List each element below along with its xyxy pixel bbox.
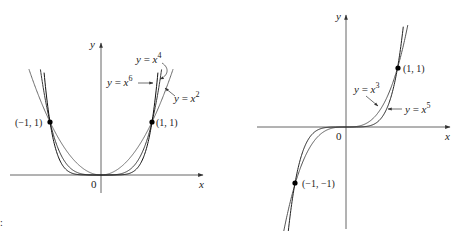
point-label-neg1-1: (−1, 1) [15, 117, 42, 129]
y-axis-label: y [335, 10, 341, 22]
origin-label: 0 [336, 130, 342, 142]
point-1-1 [395, 65, 400, 70]
point-neg1-1 [47, 119, 52, 124]
power-functions-figure: x y 0 (−1, 1) (1, 1) y = x4 y = x6 y = x… [0, 0, 460, 238]
origin-label: 0 [91, 178, 97, 190]
point-neg1-neg1 [292, 180, 297, 185]
point-label-1-1: (1, 1) [403, 63, 425, 75]
x-axis-label: x [198, 178, 204, 190]
x-axis-label: x [444, 130, 450, 142]
pointer-x3 [366, 96, 378, 106]
point-label-neg1-neg1: (−1, −1) [302, 178, 335, 190]
y-axis-label: y [89, 38, 95, 50]
even-powers-chart: x y 0 (−1, 1) (1, 1) y = x4 y = x6 y = x… [10, 38, 204, 193]
point-label-1-1: (1, 1) [156, 117, 178, 129]
label-x2: y = x2 [173, 90, 200, 104]
label-x5: y = x5 [404, 101, 431, 115]
odd-powers-chart: x y 0 (1, 1) (−1, −1) y = x3 y = x5 [257, 10, 450, 231]
label-x4: y = x4 [135, 51, 162, 65]
point-1-1 [149, 119, 154, 124]
label-x3: y = x3 [353, 81, 380, 95]
label-x6: y = x6 [106, 74, 133, 88]
cropped-edge-mark: : [0, 217, 3, 228]
